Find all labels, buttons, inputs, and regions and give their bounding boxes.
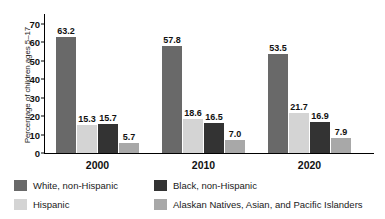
legend-item[interactable]: Alaskan Natives, Asian, and Pacific Isla… — [154, 199, 374, 210]
y-axis-tick-label: 20 — [29, 111, 40, 122]
y-axis-tick-mark — [41, 153, 44, 154]
bar-value-label: 16.5 — [205, 112, 223, 122]
y-axis-tick-label: 0 — [35, 148, 40, 159]
bar-value-label: 16.9 — [311, 111, 329, 121]
bar-group: 63.215.315.75.72000 — [56, 24, 144, 153]
y-axis-tick-mark — [41, 42, 44, 43]
bar[interactable]: 7.0 — [225, 140, 245, 153]
y-axis-tick-mark — [41, 116, 44, 117]
bar[interactable]: 21.7 — [289, 113, 309, 153]
bar[interactable]: 53.5 — [268, 54, 288, 153]
legend-swatch-icon — [14, 180, 27, 191]
legend-item[interactable]: Black, non-Hispanic — [154, 180, 374, 191]
y-axis-tick-label: 50 — [29, 55, 40, 66]
y-axis-tick-label: 10 — [29, 129, 40, 140]
bar-value-label: 7.9 — [335, 127, 348, 137]
y-axis-tick-label: 70 — [29, 19, 40, 30]
legend-item-label: Hispanic — [33, 199, 69, 210]
bar[interactable]: 15.7 — [98, 124, 118, 153]
chart-legend: White, non-HispanicBlack, non-HispanicHi… — [14, 176, 374, 214]
bar-value-label: 21.7 — [290, 102, 308, 112]
legend-item[interactable]: White, non-Hispanic — [14, 180, 154, 191]
y-axis-tick-mark — [41, 24, 44, 25]
bar-value-label: 7.0 — [229, 129, 242, 139]
x-axis-tick-label: 2000 — [86, 159, 109, 171]
bar-value-label: 15.3 — [78, 114, 96, 124]
y-axis-tick-mark — [41, 134, 44, 135]
legend-item-label: Alaskan Natives, Asian, and Pacific Isla… — [173, 199, 363, 210]
bar-value-label: 5.7 — [123, 132, 136, 142]
x-axis-tick-label: 2010 — [192, 159, 215, 171]
bar-chart-figure: Percentage of children ages 5–17 0102030… — [0, 0, 385, 219]
y-axis-tick-label: 40 — [29, 74, 40, 85]
plot-area: Percentage of children ages 5–17 0102030… — [44, 14, 374, 154]
legend-swatch-icon — [154, 199, 167, 210]
bar-value-label: 18.6 — [184, 108, 202, 118]
legend-item-label: Black, non-Hispanic — [173, 180, 257, 191]
bar-group: 53.521.716.97.92020 — [268, 24, 356, 153]
legend-item-label: White, non-Hispanic — [33, 180, 118, 191]
y-axis-tick-mark — [41, 79, 44, 80]
y-axis-tick-label: 30 — [29, 92, 40, 103]
legend-item[interactable]: Hispanic — [14, 199, 154, 210]
bar-value-label: 57.8 — [163, 35, 181, 45]
bar-value-label: 15.7 — [99, 113, 117, 123]
bar[interactable]: 7.9 — [331, 138, 351, 153]
bar[interactable]: 57.8 — [162, 46, 182, 153]
bar[interactable]: 63.2 — [56, 37, 76, 153]
bar[interactable]: 16.5 — [204, 123, 224, 153]
bar[interactable]: 16.9 — [310, 122, 330, 153]
bar[interactable]: 18.6 — [183, 119, 203, 153]
legend-swatch-icon — [154, 180, 167, 191]
legend-swatch-icon — [14, 199, 27, 210]
bar-value-label: 63.2 — [57, 26, 75, 36]
bar-value-label: 53.5 — [269, 43, 287, 53]
x-axis-tick-label: 2020 — [298, 159, 321, 171]
y-axis-tick-label: 60 — [29, 37, 40, 48]
y-axis-tick-mark — [41, 97, 44, 98]
bar-group: 57.818.616.57.02010 — [162, 24, 250, 153]
y-axis-line — [44, 14, 45, 154]
y-axis-tick-mark — [41, 60, 44, 61]
bar[interactable]: 15.3 — [77, 125, 97, 153]
bar[interactable]: 5.7 — [119, 143, 139, 154]
